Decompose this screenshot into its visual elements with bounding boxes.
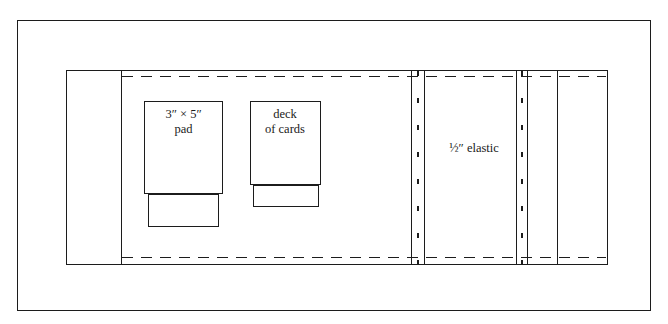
diagram-canvas: 3″ × 5″ pad deck of cards ½″ elastic bbox=[0, 0, 668, 324]
deck-pocket-label: deck of cards bbox=[249, 107, 321, 137]
diagram-background bbox=[0, 0, 668, 324]
pad-pocket-label: 3″ × 5″ pad bbox=[144, 107, 223, 137]
pattern-diagram bbox=[0, 0, 668, 324]
elastic-label: ½″ elastic bbox=[422, 141, 526, 156]
